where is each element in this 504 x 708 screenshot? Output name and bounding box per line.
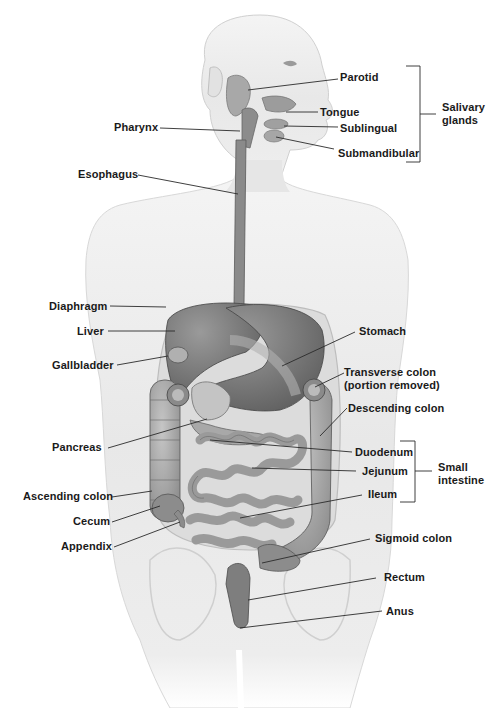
label-transverse-colon: Transverse colon (portion removed) <box>344 366 440 392</box>
label-gallbladder: Gallbladder <box>52 359 114 372</box>
label-descending-colon: Descending colon <box>348 402 444 415</box>
group-label-line1: Small <box>438 461 484 474</box>
group-label-line1: Salivary <box>442 101 485 114</box>
digestive-system-diagram: Parotid Tongue Sublingual Submandibular … <box>0 0 504 708</box>
label-liver: Liver <box>77 325 104 338</box>
label-transverse-colon-line2: (portion removed) <box>344 379 440 392</box>
label-appendix: Appendix <box>61 540 112 553</box>
label-esophagus: Esophagus <box>78 168 138 181</box>
label-cecum: Cecum <box>73 515 110 528</box>
label-ileum: Ileum <box>368 488 397 501</box>
group-label-small-intestine: Small intestine <box>438 461 484 487</box>
label-duodenum: Duodenum <box>355 446 413 459</box>
label-stomach: Stomach <box>359 325 406 338</box>
esophagus-shape <box>234 140 246 305</box>
label-tongue: Tongue <box>320 106 360 119</box>
label-jejunum: Jejunum <box>362 465 408 478</box>
label-anus: Anus <box>386 605 414 618</box>
label-parotid: Parotid <box>340 71 379 84</box>
label-diaphragm: Diaphragm <box>49 300 107 313</box>
gallbladder-shape <box>168 347 188 363</box>
label-sublingual: Sublingual <box>340 122 397 135</box>
label-submandibular: Submandibular <box>338 147 419 160</box>
label-transverse-colon-line1: Transverse colon <box>344 366 440 379</box>
group-label-line2: intestine <box>438 474 484 487</box>
label-sigmoid-colon: Sigmoid colon <box>375 532 452 545</box>
label-pharynx: Pharynx <box>114 121 158 134</box>
label-pancreas: Pancreas <box>52 441 102 454</box>
label-rectum: Rectum <box>384 571 425 584</box>
group-label-line2: glands <box>442 114 485 127</box>
group-label-salivary-glands: Salivary glands <box>442 101 485 127</box>
anatomy-illustration <box>0 0 504 708</box>
label-ascending-colon: Ascending colon <box>23 490 113 503</box>
